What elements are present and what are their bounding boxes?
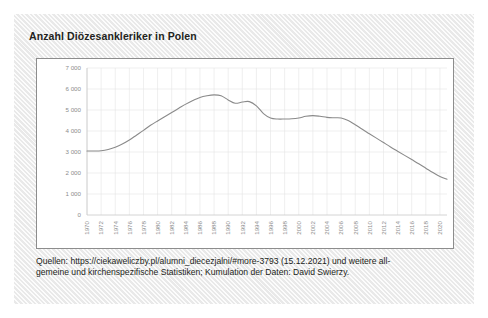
x-axis-tick-label: 2004	[323, 220, 330, 234]
x-axis-tick-label: 1976	[126, 220, 133, 234]
x-axis-tick-label: 1996	[267, 220, 274, 234]
y-axis-tick-label: 6 000	[66, 85, 82, 92]
x-axis-tick-label: 1986	[196, 220, 203, 234]
y-axis-tick-label: 1 000	[66, 190, 82, 197]
x-axis-tick-label: 2016	[408, 220, 415, 234]
caption-line-1: Quellen: https://ciekaweliczby.pl/alumni…	[36, 256, 464, 267]
x-axis-tick-label: 2008	[352, 220, 359, 234]
x-axis-tick-label: 1972	[97, 220, 104, 234]
x-axis-tick-label: 2018	[422, 220, 429, 234]
y-axis-tick-label: 7 000	[66, 64, 82, 71]
y-axis-ticks: 01 0002 0003 0004 0005 0006 0007 000	[66, 64, 82, 218]
x-axis-tick-label: 1982	[168, 220, 175, 234]
y-axis-tick-label: 2 000	[66, 169, 82, 176]
x-axis-tick-label: 2014	[394, 220, 401, 234]
x-axis-tick-label: 1980	[154, 220, 161, 234]
data-series	[87, 95, 447, 179]
page-root: Anzahl Diözesankleriker in Polen 01 0002…	[0, 0, 488, 318]
x-axis-tick-label: 1992	[239, 220, 246, 234]
plot-panel: 01 0002 0003 0004 0005 0006 0007 000 197…	[36, 58, 454, 249]
series-line	[87, 95, 447, 179]
chart-card: Anzahl Diözesankleriker in Polen 01 0002…	[14, 14, 474, 304]
x-axis-tick-label: 2000	[295, 220, 302, 234]
x-axis-tick-label: 1974	[112, 220, 119, 234]
x-axis-tick-label: 2002	[309, 220, 316, 234]
x-axis-tick-label: 1984	[182, 220, 189, 234]
x-axis-ticks: 1970197219741976197819801982198419861988…	[83, 220, 443, 234]
y-axis-tick-label: 3 000	[66, 148, 82, 155]
gridlines	[87, 68, 447, 215]
x-axis-tick-label: 1994	[253, 220, 260, 234]
x-axis-tick-label: 2020	[436, 220, 443, 234]
y-axis-tick-label: 0	[78, 211, 82, 218]
x-axis-tick-label: 1978	[140, 220, 147, 234]
x-axis-tick-label: 1990	[224, 220, 231, 234]
line-chart: 01 0002 0003 0004 0005 0006 0007 000 197…	[37, 59, 453, 248]
y-axis-tick-label: 4 000	[66, 127, 82, 134]
x-axis-tick-label: 2012	[380, 220, 387, 234]
x-axis-tick-label: 1970	[83, 220, 90, 234]
caption-line-2: gemeine und kirchenspezifische Statistik…	[36, 267, 464, 278]
y-axis-tick-label: 5 000	[66, 106, 82, 113]
x-axis-tick-label: 1988	[210, 220, 217, 234]
x-axis-tick-label: 2010	[366, 220, 373, 234]
x-axis-tick-label: 2006	[337, 220, 344, 234]
source-caption: Quellen: https://ciekaweliczby.pl/alumni…	[36, 256, 464, 278]
page-title: Anzahl Diözesankleriker in Polen	[29, 30, 197, 42]
x-axis-tick-label: 1998	[281, 220, 288, 234]
